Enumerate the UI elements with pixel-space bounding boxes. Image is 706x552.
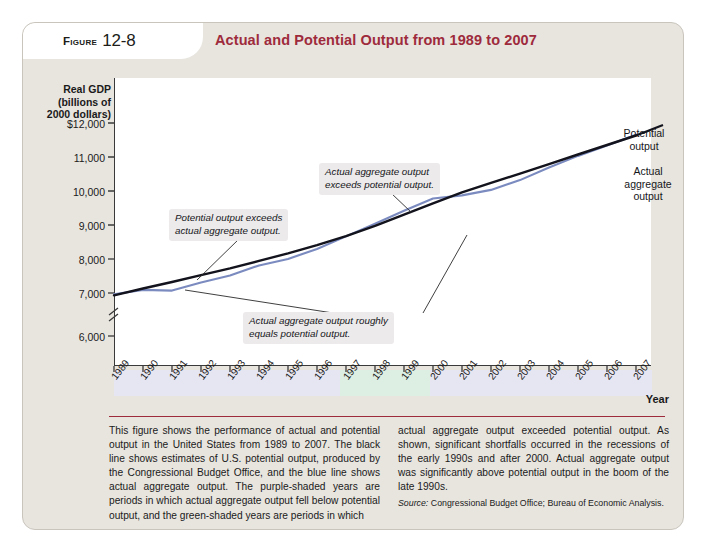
- figure-label-word: Figure: [63, 35, 97, 47]
- figure-caption: This figure shows the performance of act…: [109, 424, 669, 524]
- series-label-line-2: output: [606, 140, 682, 153]
- series-label-potential-output: Potential output: [606, 127, 682, 152]
- figure-title: Actual and Potential Output from 1989 to…: [215, 32, 537, 48]
- caption-source-label: Source:: [398, 498, 428, 508]
- callout-actual-exceeds-potential: Actual aggregate output exceeds potentia…: [319, 163, 440, 195]
- x-axis-ticks: [114, 366, 636, 372]
- series-label-line-1: Potential: [606, 127, 682, 140]
- series-label-line-2: aggregate: [612, 178, 684, 191]
- caption-text-right: actual aggregate output exceeded potenti…: [398, 424, 669, 494]
- leader-equals-left: [185, 290, 333, 313]
- figure-header: Figure12-8 Actual and Potential Output f…: [23, 23, 683, 59]
- caption-source-text: Congressional Budget Office; Bureau of E…: [431, 498, 664, 508]
- y-axis-ticks: [108, 123, 114, 336]
- series-label-actual-aggregate-output: Actual aggregate output: [612, 165, 684, 203]
- leader-actual-exceeds-potential: [391, 193, 412, 213]
- callout-potential-exceeds-actual: Potential output exceeds actual aggregat…: [169, 209, 288, 241]
- series-label-line-3: output: [612, 190, 684, 203]
- callout-line-2: actual aggregate output.: [175, 225, 282, 238]
- figure-number: 12-8: [102, 31, 135, 50]
- figure-number-badge: Figure12-8: [23, 23, 203, 59]
- callout-line-1: Potential output exceeds: [175, 212, 282, 225]
- caption-column-left: This figure shows the performance of act…: [109, 424, 380, 524]
- caption-source: Source: Congressional Budget Office; Bur…: [398, 498, 669, 510]
- caption-divider: [109, 416, 665, 417]
- callout-line-1: Actual aggregate output roughly: [249, 315, 388, 328]
- callout-actual-equals-potential: Actual aggregate output roughly equals p…: [243, 312, 394, 344]
- series-label-line-1: Actual: [612, 165, 684, 178]
- leader-equals-right: [423, 235, 467, 313]
- y-axis-break-icon: [109, 308, 118, 321]
- chart-region: Real GDP (billions of 2000 dollars) $12,…: [23, 59, 684, 411]
- caption-column-right: actual aggregate output exceeded potenti…: [398, 424, 669, 524]
- callout-line-2: exceeds potential output.: [325, 179, 434, 192]
- callout-line-1: Actual aggregate output: [325, 166, 434, 179]
- figure-card: Figure12-8 Actual and Potential Output f…: [22, 22, 684, 530]
- callout-line-2: equals potential output.: [249, 328, 388, 341]
- caption-text-left: This figure shows the performance of act…: [109, 424, 380, 523]
- chart-svg: [23, 59, 684, 411]
